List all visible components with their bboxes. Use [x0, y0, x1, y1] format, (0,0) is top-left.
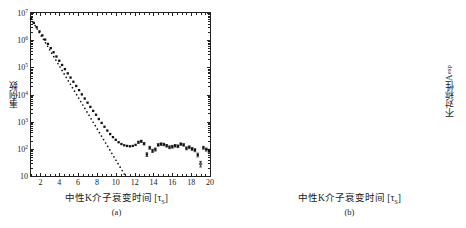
panel-a-x-tick-label: 20 — [206, 176, 214, 187]
panel-a-y-tick-label: 107 — [17, 8, 31, 19]
panel-a-data-point — [69, 76, 71, 78]
panel-a-x-tick-label: 16 — [168, 176, 176, 187]
panel-a-data-point — [182, 144, 185, 147]
panel-b-y-axis-label-superscript: exp — [446, 65, 452, 74]
panel-a-data-point — [98, 118, 100, 120]
panel-a-data-point — [174, 145, 177, 148]
panel-a-data-point — [179, 143, 182, 145]
panel-a-data-point — [75, 85, 77, 87]
panel-a-x-axis-label-text: 中性K介子衰变时间 [ — [65, 193, 157, 203]
panel-a-data-point — [160, 143, 163, 145]
panel-a-y-tick-label: 104 — [17, 89, 31, 100]
panel-a-data-point — [64, 68, 66, 70]
panel-a-x-major-tick-top — [210, 13, 211, 16]
panel-a-y-tick-label: 103 — [17, 116, 31, 127]
panel-a-data-point — [196, 153, 199, 157]
panel-a-data-point — [117, 141, 119, 143]
panel-a-x-tick-label: 14 — [149, 176, 157, 187]
panel-a-y-tick-label: 10 — [20, 172, 31, 181]
panel-b-x-axis-label: 中性K介子衰变时间 [τS] — [233, 190, 466, 205]
panel-a-data-point — [41, 34, 43, 36]
panel-a-x-tick-label: 8 — [95, 176, 99, 187]
panel-a-data-point — [55, 55, 57, 57]
panel-a-data-point — [30, 17, 32, 19]
panel-a-x-tick-label: 6 — [76, 176, 80, 187]
panel-a-x-tick-label: 18 — [187, 176, 195, 187]
panel-a-data-point — [185, 147, 188, 150]
panel-a-data-point — [44, 38, 46, 40]
panel-a-data-point — [134, 144, 136, 146]
panel-a-data-point — [132, 145, 134, 147]
panel-a-data-point — [120, 143, 122, 145]
panel-a: 事例数 10102103104105106107 246810121416182… — [0, 0, 233, 228]
panel-a-data-point — [137, 141, 140, 143]
panel-a-data-point — [202, 146, 205, 149]
panel-a-data-point — [188, 146, 191, 149]
panel-a-data-point — [129, 145, 131, 147]
panel-a-data-point — [61, 64, 63, 66]
panel-a-data-point — [92, 110, 94, 112]
panel-a-data-point — [58, 60, 60, 62]
panel-a-data-point — [103, 126, 105, 128]
panel-b: 不对称性Aexp 0.50.40.30.20.10-0.1-0.2-0.3-0.… — [233, 0, 466, 228]
panel-a-x-axis-label: 中性K介子衰变时间 [τS] — [0, 190, 233, 205]
panel-a-data-point — [194, 149, 197, 152]
panel-a-data-point — [199, 161, 202, 167]
panel-a-data-point — [67, 72, 69, 74]
panel-a-data-point — [208, 149, 211, 152]
panel-a-x-axis-bracket-close: ] — [165, 193, 168, 203]
panel-a-data-point — [177, 145, 180, 148]
panel-a-data-layer — [31, 13, 210, 176]
panel-b-caption: (b) — [233, 207, 466, 217]
panel-a-data-point — [191, 147, 194, 150]
panel-a-data-point — [86, 102, 88, 104]
panel-a-caption: (a) — [0, 207, 233, 217]
panel-b-x-axis-label-text: 中性K介子衰变时间 [ — [298, 193, 390, 203]
panel-a-plot-area: 10102103104105106107 2468101214161820 — [30, 12, 211, 177]
panel-a-data-point — [115, 139, 117, 141]
panel-a-data-point — [47, 43, 49, 45]
panel-b-y-axis-label: 不对称性Aexp — [442, 36, 455, 146]
panel-a-data-point — [157, 144, 160, 147]
panel-a-x-tick-label: 4 — [57, 176, 61, 187]
panel-a-data-point — [123, 144, 125, 146]
panel-a-data-point — [140, 140, 143, 142]
two-panel-figure: 事例数 10102103104105106107 246810121416182… — [0, 0, 466, 228]
panel-a-data-point — [89, 106, 91, 108]
panel-a-y-major-tick — [31, 176, 34, 177]
panel-a-data-point — [84, 97, 86, 99]
panel-a-data-point — [165, 145, 168, 148]
panel-a-y-tick-label: 106 — [17, 35, 31, 46]
panel-a-data-point — [101, 122, 103, 124]
panel-a-data-point — [81, 93, 83, 95]
panel-a-data-point — [168, 146, 171, 149]
panel-a-data-point — [112, 136, 114, 138]
panel-a-data-point — [50, 47, 52, 49]
panel-a-data-point — [33, 22, 35, 24]
panel-a-x-tick-label: 2 — [38, 176, 42, 187]
panel-b-y-axis-label-text: 不对称性A — [442, 74, 455, 117]
panel-a-x-tick-label: 10 — [112, 176, 120, 187]
panel-a-data-point — [148, 146, 151, 149]
panel-a-data-point — [95, 114, 97, 116]
panel-a-data-point — [78, 89, 80, 91]
panel-a-data-point — [52, 51, 54, 53]
panel-a-y-tick-label: 102 — [17, 144, 31, 155]
panel-a-data-point — [145, 153, 148, 157]
panel-a-data-point — [154, 148, 157, 151]
panel-a-data-point — [162, 143, 165, 145]
panel-a-x-tick-label: 12 — [131, 176, 139, 187]
panel-a-data-point — [126, 145, 128, 147]
panel-b-x-axis-bracket-close: ] — [398, 193, 401, 203]
panel-a-data-point — [72, 81, 74, 83]
panel-a-data-point — [171, 145, 174, 148]
panel-a-data-point — [143, 143, 146, 145]
panel-a-y-tick-label: 105 — [17, 62, 31, 73]
panel-a-data-point — [151, 149, 154, 152]
panel-a-data-point — [36, 26, 38, 28]
panel-a-data-point — [106, 129, 108, 131]
panel-a-data-point — [109, 133, 111, 135]
panel-a-data-point — [205, 148, 208, 151]
panel-a-data-point — [38, 30, 40, 32]
